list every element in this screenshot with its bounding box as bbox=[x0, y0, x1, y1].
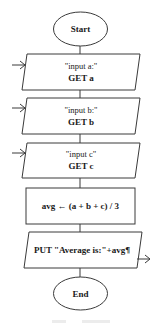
input-arrow-icon bbox=[12, 61, 25, 69]
input-a-action: GET a bbox=[68, 73, 94, 83]
input-a-block: "input a:" GET a bbox=[12, 54, 140, 90]
input-c-action: GET c bbox=[68, 161, 93, 171]
input-c-prompt: "input c" bbox=[66, 149, 96, 159]
process-label: avg ← (a + b + c) / 3 bbox=[42, 201, 120, 211]
end-terminal: End bbox=[54, 277, 108, 310]
end-label: End bbox=[72, 289, 88, 299]
input-arrow-icon bbox=[12, 104, 25, 112]
input-c-block: "input c" GET c bbox=[12, 143, 140, 178]
input-b-prompt: "input b:" bbox=[64, 105, 97, 115]
output-label: PUT "Average is:"+avg¶ bbox=[34, 245, 130, 255]
flowchart-canvas: Start "input a:" GET a "input b:" GET b … bbox=[0, 0, 161, 328]
process-block: avg ← (a + b + c) / 3 bbox=[26, 188, 135, 224]
output-block: PUT "Average is:"+avg¶ bbox=[24, 232, 150, 268]
input-a-prompt: "input a:" bbox=[65, 61, 98, 71]
input-b-block: "input b:" GET b bbox=[12, 98, 140, 134]
input-arrow-icon bbox=[12, 149, 25, 157]
input-b-action: GET b bbox=[68, 117, 94, 127]
start-label: Start bbox=[71, 24, 91, 34]
start-terminal: Start bbox=[54, 12, 108, 46]
faint-caption bbox=[52, 320, 110, 323]
